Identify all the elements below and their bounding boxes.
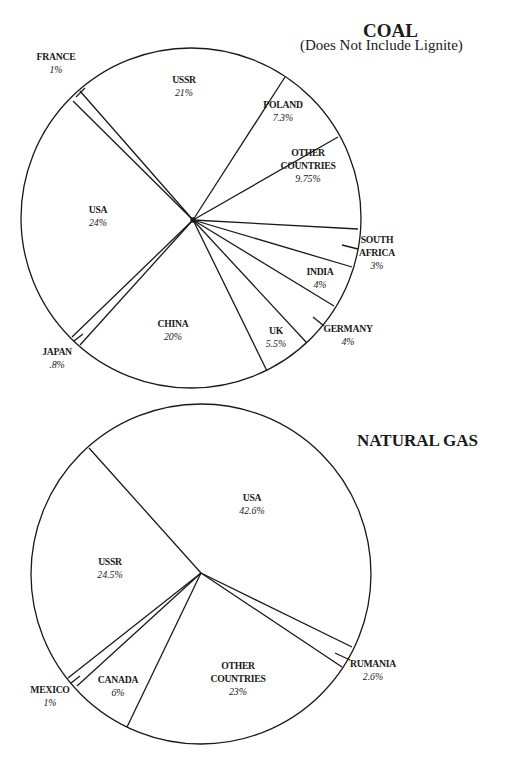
gas-label-ussr: USSR 24.5%	[96, 555, 124, 581]
coal-label-uk: UK 5.5%	[265, 324, 288, 350]
coal-pie	[21, 48, 361, 388]
gas-pie	[31, 404, 371, 744]
gas-label-usa: USA 42.6%	[238, 491, 266, 517]
gas-label-other-countries: OTHER COUNTRIES 23%	[207, 659, 270, 698]
coal-label-south-africa: SOUTH AFRICA 3%	[357, 233, 398, 272]
coal-label-usa: USA 24%	[87, 203, 108, 229]
gas-title: NATURAL GAS	[357, 431, 478, 451]
gas-label-rumania: RUMANIA 2.6%	[347, 657, 399, 683]
gas-label-mexico: MEXICO 1%	[28, 683, 73, 709]
coal-subtitle: (Does Not Include Lignite)	[300, 37, 463, 54]
coal-pie-center	[191, 218, 195, 222]
coal-label-india: INDIA 4%	[305, 265, 336, 291]
coal-label-china: CHINA 20%	[155, 317, 190, 343]
coal-label-ussr: USSR 21%	[171, 73, 198, 99]
coal-label-poland: POLAND 7.3%	[261, 98, 306, 124]
coal-label-japan: JAPAN .8%	[40, 345, 74, 371]
gas-label-canada: CANADA 6%	[95, 673, 141, 699]
coal-label-other-countries: OTHER COUNTRIES 9.75%	[277, 146, 340, 185]
coal-label-france: FRANCE 1%	[34, 50, 78, 76]
coal-label-germany: GERMANY 4%	[320, 322, 376, 348]
